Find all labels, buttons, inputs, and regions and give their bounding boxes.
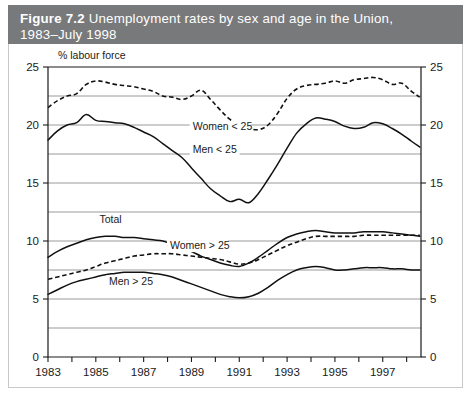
x-tick-label: 1989 [179,366,205,378]
y-tick-label-right: 25 [430,61,443,73]
y-tick-label-left: 15 [26,177,39,189]
x-tick-label: 1995 [322,366,348,378]
x-tick-label: 1985 [83,366,109,378]
x-tick-label: 1997 [370,366,396,378]
series-label-women-25: Women < 25 [193,120,253,132]
y-tick-label-left: 20 [26,119,39,131]
y-tick-label-left: 5 [33,293,39,305]
series-label-total: Total [99,213,121,225]
x-tick-label: 1993 [274,366,300,378]
figure-number: Figure 7.2 [20,11,85,26]
y-tick-label-right: 0 [430,351,436,363]
series-label-men-25: Men < 25 [193,143,237,155]
y-tick-label-left: 10 [26,235,39,247]
figure-title-line2: 1983–July 1998 [20,27,117,42]
y-axis-caption: % labour force [58,49,126,61]
x-tick-label: 1991 [226,366,252,378]
series-label-women-25: Women > 25 [170,239,230,251]
y-tick-label-right: 15 [430,177,443,189]
y-tick-label-right: 10 [430,235,443,247]
y-tick-label-right: 20 [430,119,443,131]
series-line-men-25 [48,267,420,298]
figure-title-bar: Figure 7.2 Unemployment rates by sex and… [8,5,463,49]
figure-title-line1: Unemployment rates by sex and age in the… [89,11,393,26]
line-chart: % labour forceWomen < 25Men < 25TotalWom… [9,44,464,388]
x-tick-label: 1987 [131,366,157,378]
series-line-women-25 [48,235,420,279]
y-tick-label-left: 0 [33,351,39,363]
series-group [48,77,420,297]
y-tick-label-right: 5 [430,293,436,305]
x-axis-ticks: 19831985198719891991199319951997 [35,357,406,378]
series-label-men-25: Men > 25 [109,275,153,287]
x-tick-label: 1983 [35,366,61,378]
y-tick-label-left: 25 [26,61,39,73]
chart-frame: % labour forceWomen < 25Men < 25TotalWom… [8,44,463,388]
figure-container: Figure 7.2 Unemployment rates by sex and… [0,0,471,393]
